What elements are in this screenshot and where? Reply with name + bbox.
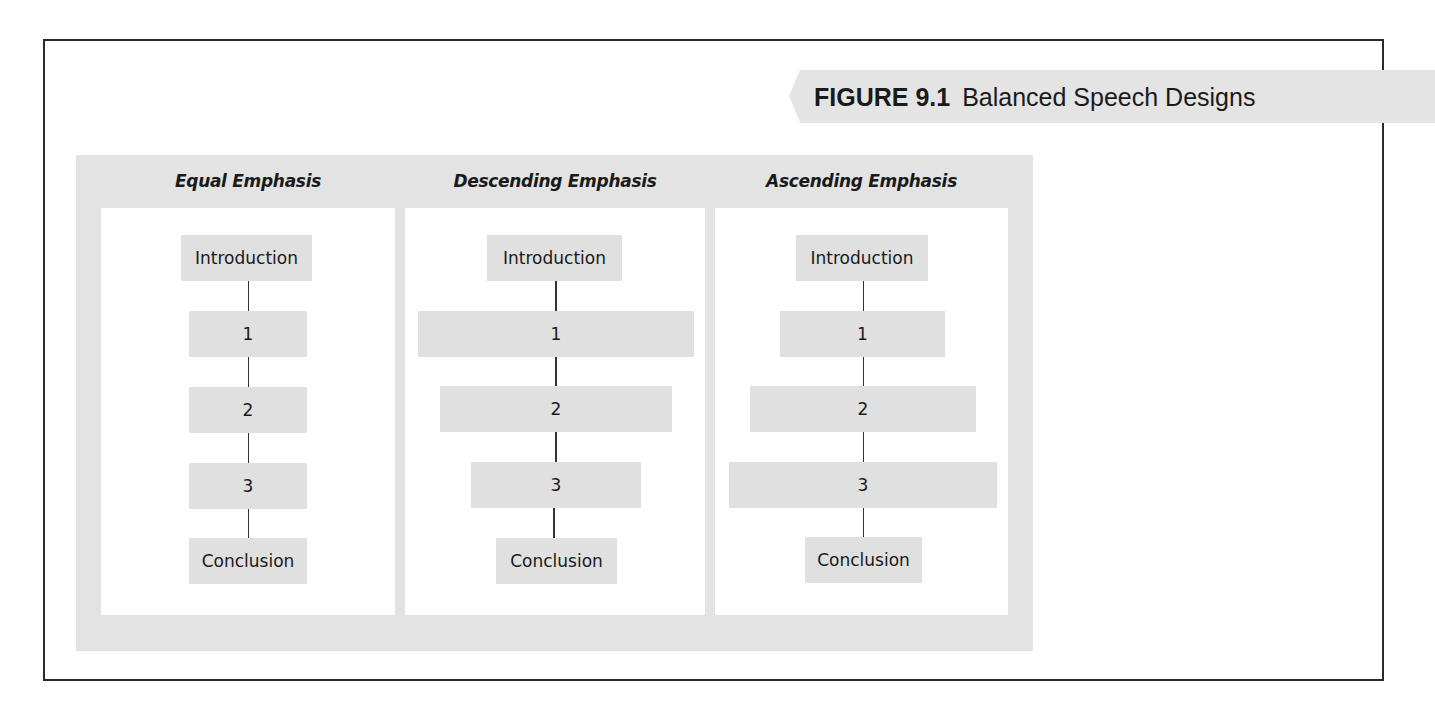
ascending-point-1-box: 1 (780, 311, 945, 357)
column-heading-descending: Descending Emphasis (405, 155, 705, 208)
equal-point-2-box: 2 (189, 387, 307, 433)
equal-connector-2 (248, 357, 250, 387)
equal-connector-4 (248, 509, 250, 538)
descending-point-1-box: 1 (418, 311, 694, 357)
descending-connector-2 (555, 357, 557, 386)
equal-introduction-box: Introduction (181, 235, 312, 281)
descending-conclusion-box: Conclusion (496, 538, 617, 584)
descending-point-2-box: 2 (440, 386, 672, 432)
descending-connector-4 (553, 508, 555, 538)
ascending-connector-4 (863, 508, 865, 537)
descending-introduction-box: Introduction (487, 235, 622, 281)
figure-title: FIGURE 9.1Balanced Speech Designs (814, 79, 1255, 115)
title-band-arrow (789, 70, 800, 122)
equal-point-3-box: 3 (189, 463, 307, 509)
figure-label: FIGURE 9.1 (814, 83, 950, 111)
ascending-connector-3 (863, 432, 865, 462)
equal-connector-1 (248, 281, 250, 311)
ascending-conclusion-box: Conclusion (805, 537, 922, 583)
descending-connector-3 (555, 432, 557, 462)
equal-point-1-box: 1 (189, 311, 307, 357)
ascending-connector-2 (863, 357, 865, 386)
column-heading-ascending: Ascending Emphasis (715, 155, 1008, 208)
column-heading-equal: Equal Emphasis (101, 155, 395, 208)
ascending-point-2-box: 2 (750, 386, 976, 432)
descending-connector-1 (555, 281, 557, 311)
ascending-introduction-box: Introduction (796, 235, 928, 281)
figure-title-text: Balanced Speech Designs (962, 83, 1255, 111)
ascending-connector-1 (863, 281, 865, 311)
equal-conclusion-box: Conclusion (189, 538, 307, 584)
equal-connector-3 (248, 433, 250, 463)
ascending-point-3-box: 3 (729, 462, 997, 508)
descending-point-3-box: 3 (471, 462, 641, 508)
